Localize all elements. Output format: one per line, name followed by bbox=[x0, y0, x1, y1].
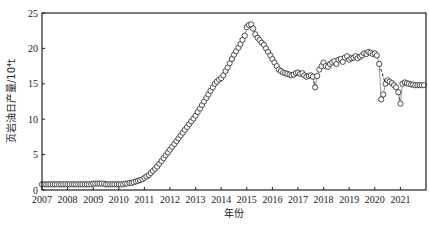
x-tick-label: 2009 bbox=[83, 194, 103, 205]
data-point-marker bbox=[313, 85, 318, 90]
data-point-marker bbox=[396, 90, 401, 95]
x-tick-label: 2020 bbox=[365, 194, 385, 205]
data-point-marker bbox=[381, 92, 386, 97]
x-tick-label: 2019 bbox=[339, 194, 359, 205]
x-axis-label: 年份 bbox=[224, 207, 244, 219]
x-tick-label: 2012 bbox=[160, 194, 180, 205]
x-tick-label: 2007 bbox=[32, 194, 52, 205]
x-tick-label: 2018 bbox=[314, 194, 334, 205]
data-point-marker bbox=[251, 26, 256, 31]
x-tick-label: 2010 bbox=[109, 194, 129, 205]
data-point-marker bbox=[374, 53, 379, 58]
data-point-marker bbox=[315, 73, 320, 78]
axis-ticks: 2007200820092010201120122013201420152016… bbox=[28, 8, 410, 206]
data-point-marker bbox=[393, 85, 398, 90]
data-point-marker bbox=[242, 33, 247, 38]
x-tick-label: 2021 bbox=[390, 194, 410, 205]
y-tick-label: 20 bbox=[28, 43, 38, 54]
y-axis-label: 页岩油日产量/10⁴t bbox=[5, 59, 17, 143]
y-tick-label: 15 bbox=[28, 78, 38, 89]
x-tick-label: 2014 bbox=[211, 194, 231, 205]
y-tick-label: 5 bbox=[33, 149, 38, 160]
data-point-marker bbox=[379, 97, 384, 102]
y-tick-label: 10 bbox=[28, 114, 38, 125]
production-chart: 页岩油日产量/10⁴t 年份 2007200820092010201120122… bbox=[0, 0, 429, 228]
data-point-marker bbox=[377, 61, 382, 66]
x-tick-label: 2015 bbox=[237, 194, 257, 205]
y-axis-title: 页岩油日产量/10⁴t bbox=[5, 59, 17, 143]
x-axis-title: 年份 bbox=[224, 207, 244, 219]
x-tick-label: 2013 bbox=[186, 194, 206, 205]
x-tick-label: 2008 bbox=[58, 194, 78, 205]
data-point-marker bbox=[398, 101, 403, 106]
y-tick-label: 25 bbox=[28, 8, 38, 19]
y-tick-label: 0 bbox=[33, 185, 38, 196]
data-series bbox=[39, 22, 426, 187]
plot-frame bbox=[42, 13, 426, 190]
x-tick-label: 2017 bbox=[288, 194, 308, 205]
x-tick-label: 2016 bbox=[262, 194, 282, 205]
series-line bbox=[42, 24, 424, 184]
x-tick-label: 2011 bbox=[135, 194, 155, 205]
